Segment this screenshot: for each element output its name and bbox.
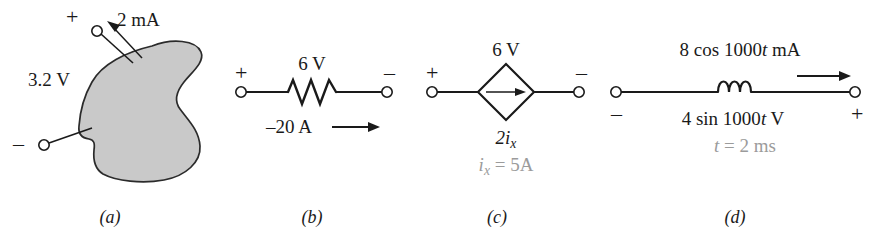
panel-d-current-label: 8 cos 1000t mA xyxy=(680,40,801,59)
panel-d-caption: (d) xyxy=(725,207,746,228)
inductor-right-node xyxy=(850,87,860,97)
panel-d-voltage-label: 4 sin 1000t V xyxy=(682,109,785,128)
circuit-figure: + 2 mA 3.2 V – (a) + 6 V – –20 A (b) + 6… xyxy=(0,0,878,240)
panel-d-annotation: t = 2 ms xyxy=(714,136,776,155)
inductor-coil xyxy=(718,82,751,93)
panel-d-voltage-post: V xyxy=(766,108,784,129)
panel-d-voltage-pre: 4 sin 1000 xyxy=(682,108,761,129)
panel-d-annotation-rest: = 2 ms xyxy=(724,135,776,156)
panel-d-annotation-var: t xyxy=(714,135,719,156)
panel-d-current-pre: 8 cos 1000 xyxy=(680,39,762,60)
inductor-left-node xyxy=(611,87,621,97)
panel-d-plus-sign: + xyxy=(851,103,863,125)
current-arrow-head-d xyxy=(839,71,851,81)
panel-d-minus-sign: – xyxy=(611,103,622,125)
panel-d-current-post: mA xyxy=(767,39,800,60)
